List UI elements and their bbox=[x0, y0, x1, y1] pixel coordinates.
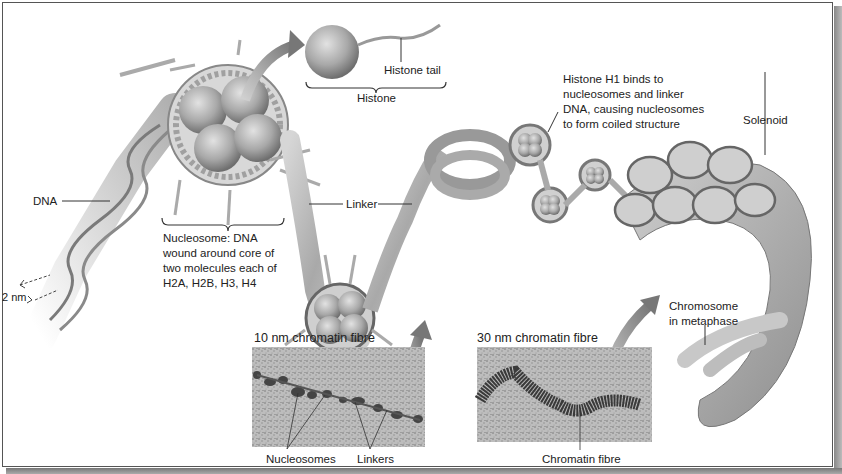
chromosome-label: Chromosome in metaphase bbox=[669, 299, 738, 329]
histone-h1-line-3: DNA, causing nucleosomes bbox=[563, 102, 704, 117]
histone-tail-label: Histone tail bbox=[384, 63, 441, 78]
linker-label: Linker bbox=[346, 197, 377, 212]
chromosome-line-1: Chromosome bbox=[669, 299, 738, 314]
solenoid-label: Solenoid bbox=[743, 113, 788, 128]
micrograph-10nm-title: 10 nm chromatin fibre bbox=[254, 331, 375, 346]
micrograph-10nm bbox=[252, 347, 425, 449]
chromosome-line-2: in metaphase bbox=[669, 314, 738, 329]
nucleosome-label-line-1: Nucleosome: DNA bbox=[163, 231, 277, 246]
histone-label: Histone bbox=[357, 91, 396, 106]
nucleosomes-callout: Nucleosomes bbox=[266, 452, 336, 467]
nucleosome-bracket bbox=[162, 218, 284, 231]
nucleosome-label-line-2: wound around core of bbox=[163, 246, 277, 261]
micrograph-30nm bbox=[477, 347, 652, 450]
linkers-callout: Linkers bbox=[357, 452, 394, 467]
histone-h1-line-1: Histone H1 binds to bbox=[563, 72, 704, 87]
micrograph-30nm-title: 30 nm chromatin fibre bbox=[477, 331, 598, 346]
scale-label: 2 nm bbox=[2, 290, 26, 305]
histone-molecule bbox=[305, 25, 446, 93]
nucleosome-label-line-4: H2A, H2B, H3, H4 bbox=[163, 276, 277, 291]
nucleosome-label-line-3: two molecules each of bbox=[163, 261, 277, 276]
nucleosome-label: Nucleosome: DNA wound around core of two… bbox=[163, 231, 277, 291]
histone-h1-line-4: to form coiled structure bbox=[563, 117, 704, 132]
dna-label: DNA bbox=[33, 194, 57, 209]
dna-double-helix bbox=[40, 110, 175, 335]
histone-h1-label: Histone H1 binds to nucleosomes and link… bbox=[563, 72, 704, 132]
histone-h1-line-2: nucleosomes and linker bbox=[563, 87, 704, 102]
chromatin-fibre-callout: Chromatin fibre bbox=[542, 452, 621, 467]
